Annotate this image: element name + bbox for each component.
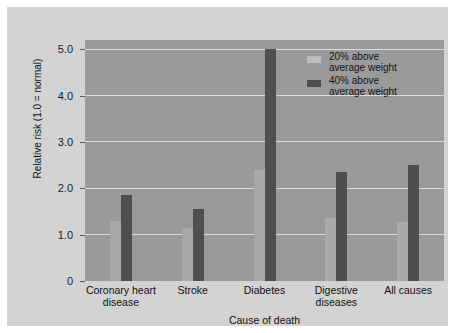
x-axis-tick-label: Diabetes bbox=[229, 285, 301, 297]
x-axis-title: Cause of death bbox=[85, 314, 444, 326]
bar bbox=[336, 172, 347, 281]
chart-figure: 01.02.03.04.05.0 Relative risk (1.0 = no… bbox=[0, 0, 455, 333]
bar bbox=[325, 218, 336, 281]
legend-label: 20% aboveaverage weight bbox=[329, 51, 429, 73]
x-axis-tick-label-line: diseases bbox=[300, 297, 372, 309]
x-axis-tick-label-line: disease bbox=[85, 297, 157, 309]
x-axis-tick-label: Stroke bbox=[157, 285, 229, 297]
x-axis-tick-label-line: Stroke bbox=[157, 285, 229, 297]
y-axis-tick-label: 1.0 bbox=[7, 230, 73, 241]
legend-label-line1: 40% above bbox=[329, 75, 429, 86]
legend-label-line1: 20% above bbox=[329, 51, 429, 62]
x-axis-tick-label: Digestivediseases bbox=[300, 285, 372, 308]
y-axis-title: Relative risk (1.0 = normal) bbox=[32, 29, 43, 209]
x-axis-tick-label-line: Digestive bbox=[300, 285, 372, 297]
bar bbox=[182, 228, 193, 281]
x-axis-tick-label-line: All causes bbox=[372, 285, 444, 297]
y-axis-tick bbox=[80, 281, 85, 282]
x-axis-tick-label-line: Diabetes bbox=[229, 285, 301, 297]
legend-item: 20% aboveaverage weight bbox=[307, 52, 432, 74]
x-axis-tick-label: Coronary heartdisease bbox=[85, 285, 157, 308]
legend-swatch bbox=[307, 80, 321, 87]
bar bbox=[397, 222, 408, 281]
legend-swatch bbox=[307, 56, 321, 63]
bar bbox=[193, 209, 204, 281]
legend-label-line2: average weight bbox=[329, 86, 429, 97]
chart-legend: 20% aboveaverage weight40% aboveaverage … bbox=[307, 52, 432, 100]
legend-label: 40% aboveaverage weight bbox=[329, 75, 429, 97]
bar bbox=[110, 221, 121, 281]
y-axis-tick-label: 0 bbox=[7, 276, 73, 287]
bar bbox=[121, 195, 132, 281]
x-axis-tick-label-line: Coronary heart bbox=[85, 285, 157, 297]
chart-card: 01.02.03.04.05.0 Relative risk (1.0 = no… bbox=[7, 7, 448, 326]
bar bbox=[265, 49, 276, 281]
bar bbox=[408, 165, 419, 281]
legend-label-line2: average weight bbox=[329, 62, 429, 73]
x-axis-tick-label: All causes bbox=[372, 285, 444, 297]
bar bbox=[254, 170, 265, 281]
legend-item: 40% aboveaverage weight bbox=[307, 76, 432, 98]
